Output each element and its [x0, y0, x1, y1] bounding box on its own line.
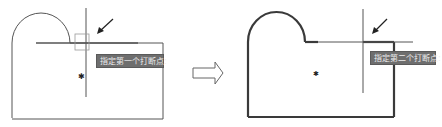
left-center-marker: ✱ — [78, 72, 85, 81]
right-arrow-icon — [193, 62, 223, 84]
right-center-marker: ✱ — [313, 70, 319, 78]
right-command-prompt-tooltip: 指定第二个打断点: — [370, 51, 436, 65]
right-pick-arrow-icon — [372, 19, 387, 34]
left-pick-arrow-icon — [97, 19, 113, 34]
left-command-prompt-tooltip: 指定第一个打断点: — [96, 54, 164, 68]
left-crosshair — [36, 8, 138, 97]
